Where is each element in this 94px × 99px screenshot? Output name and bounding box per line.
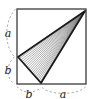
diagram-canvas: a b b a [0, 0, 94, 99]
label-bottom-a: a [60, 88, 67, 99]
label-left-b: b [4, 64, 11, 77]
geometry-figure: a b b a [0, 0, 94, 99]
label-left-a: a [5, 27, 12, 40]
label-bottom-b: b [25, 88, 32, 99]
